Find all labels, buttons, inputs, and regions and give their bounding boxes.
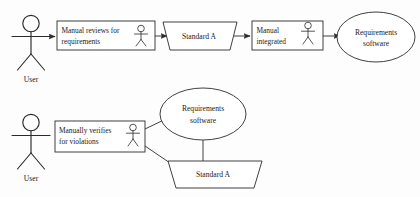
activity-manually-verifies-label-line1: Manually verifies: [59, 126, 111, 135]
ellipse-requirements-software-top[interactable]: Requirements software: [337, 12, 415, 62]
artifact-standard-a-top[interactable]: Standard A: [163, 22, 237, 50]
activity-manual-integrated-label-line1: Manual: [257, 26, 280, 35]
actor-user-top: User: [12, 15, 50, 84]
ellipse-requirements-software-bottom-label-line2: software: [190, 116, 217, 125]
activity-manual-reviews-label-line2: requirements: [62, 37, 101, 46]
actor-user-top-label: User: [24, 75, 39, 84]
ellipse-requirements-software-bottom-label-line1: Requirements: [182, 104, 224, 113]
activity-manual-reviews[interactable]: Manual reviews for requirements: [57, 21, 155, 50]
actor-user-bottom-label: User: [24, 174, 39, 183]
activity-manually-verifies-label-line2: for violations: [59, 137, 99, 146]
ellipse-requirements-software-bottom[interactable]: Requirements software: [160, 88, 246, 140]
uml-diagram-canvas: User Manual reviews for requirements Sta…: [0, 0, 420, 197]
artifact-standard-a-bottom[interactable]: Standard A: [168, 161, 262, 188]
ellipse-requirements-software-top-label-line2: software: [363, 39, 390, 48]
artifact-standard-a-bottom-label: Standard A: [196, 170, 230, 179]
activity-manually-verifies[interactable]: Manually verifies for violations: [55, 121, 145, 152]
activity-manual-reviews-label-line1: Manual reviews for: [62, 26, 120, 35]
activity-manual-integrated-label-line2: integrated: [257, 37, 287, 46]
actor-user-bottom: User: [12, 114, 50, 183]
activity-manual-integrated[interactable]: Manual integrated: [252, 21, 323, 50]
artifact-standard-a-top-label: Standard A: [182, 32, 216, 41]
ellipse-requirements-software-top-label-line1: Requirements: [355, 28, 397, 37]
